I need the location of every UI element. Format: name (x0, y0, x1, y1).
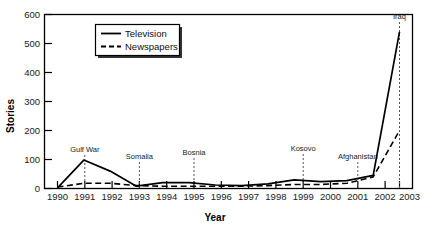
x-tick-1997: 1997 (238, 191, 259, 202)
x-tick-1992: 1992 (102, 191, 123, 202)
x-tick-1995: 1995 (183, 191, 204, 202)
annotation-label-gulf-war: Gulf War (70, 145, 100, 154)
stories-per-year-line-chart: 600 500 400 300 200 100 0 Stories (0, 0, 426, 231)
y-axis-title: Stories (5, 99, 16, 133)
x-tick-2000: 2000 (320, 191, 341, 202)
x-tick-1991: 1991 (74, 191, 95, 202)
legend-label-newspapers: Newspapers (125, 41, 178, 52)
annotation-label-somalia: Somalia (126, 152, 154, 161)
annotation-label-kosovo: Kosovo (291, 144, 316, 153)
chart-container: 600 500 400 300 200 100 0 Stories (0, 0, 426, 231)
y-tick-400: 400 (24, 67, 40, 78)
x-tick-1999: 1999 (293, 191, 314, 202)
x-axis-title: Year (204, 212, 225, 223)
annotation-label-afghanistan: Afghanistan (338, 152, 378, 161)
annotation-label-bosnia: Bosnia (183, 148, 207, 157)
y-tick-600: 600 (24, 9, 40, 20)
x-tick-1998: 1998 (265, 191, 286, 202)
x-tick-2003: 2003 (399, 191, 420, 202)
legend: Television Newspapers (96, 25, 183, 59)
x-tick-1993: 1993 (129, 191, 150, 202)
x-tick-2002: 2002 (375, 191, 396, 202)
y-tick-0: 0 (35, 183, 40, 194)
x-tick-2001: 2001 (347, 191, 368, 202)
y-tick-200: 200 (24, 125, 40, 136)
legend-label-television: Television (125, 28, 167, 39)
y-axis-tick-labels: 600 500 400 300 200 100 0 (24, 9, 40, 194)
x-tick-1990: 1990 (47, 191, 68, 202)
y-tick-100: 100 (24, 154, 40, 165)
x-axis-tick-labels: 1990 1991 1992 1993 1994 1995 1996 1997 … (47, 191, 420, 202)
y-tick-500: 500 (24, 38, 40, 49)
x-tick-1994: 1994 (156, 191, 177, 202)
x-tick-1996: 1996 (211, 191, 232, 202)
y-axis-ticks (45, 15, 53, 189)
annotation-label-iraq: Iraq (393, 12, 406, 21)
y-tick-300: 300 (24, 96, 40, 107)
